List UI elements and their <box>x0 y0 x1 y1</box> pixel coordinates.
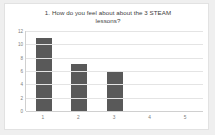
y-axis-tick-label: 8 <box>20 55 23 60</box>
gridline <box>26 31 203 32</box>
x-axis-tick-label: 1 <box>25 111 61 125</box>
x-axis-tick-label: 4 <box>132 111 168 125</box>
y-axis-tick-label: 12 <box>18 29 23 34</box>
y-axis-tick-label: 6 <box>20 69 23 74</box>
x-axis-tick-label: 5 <box>167 111 203 125</box>
gridline <box>26 44 203 45</box>
bar[interactable] <box>107 71 123 111</box>
chart-plot-wrapper: 121086420 12345 <box>11 31 205 127</box>
y-axis-tick-label: 0 <box>20 109 23 114</box>
chart-title: 1. How do you feel about about the 3 STE… <box>19 9 197 26</box>
y-axis: 121086420 <box>11 31 24 111</box>
gridline <box>26 84 203 85</box>
plot-area <box>25 31 203 111</box>
chart-title-line-1: 1. How do you feel about about the 3 STE… <box>45 9 171 16</box>
gridline <box>26 98 203 99</box>
gridline <box>26 58 203 59</box>
bar[interactable] <box>36 38 52 111</box>
x-axis-tick-label: 3 <box>96 111 132 125</box>
chart-card: 1. How do you feel about about the 3 STE… <box>4 3 209 130</box>
y-axis-tick-label: 10 <box>18 42 23 47</box>
chart-title-line-2: lessons? <box>96 17 121 24</box>
x-axis-tick-label: 2 <box>61 111 97 125</box>
x-axis: 12345 <box>25 111 203 125</box>
y-axis-tick-label: 2 <box>20 95 23 100</box>
y-axis-tick-label: 4 <box>20 82 23 87</box>
gridline <box>26 71 203 72</box>
